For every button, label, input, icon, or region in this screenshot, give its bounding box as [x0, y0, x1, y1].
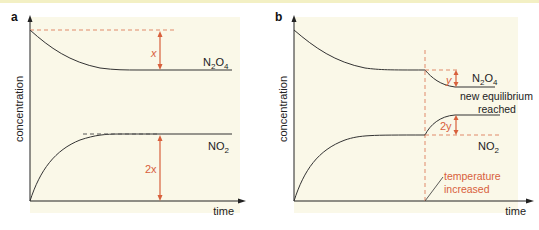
temperature-label: temperature — [444, 170, 501, 182]
x-axis-arrow-icon — [526, 199, 534, 204]
y-axis-label: concentration — [13, 76, 25, 142]
x-axis-label: time — [505, 205, 526, 217]
increased-label: increased — [444, 183, 490, 195]
x-axis-arrow-icon — [238, 199, 246, 204]
y-axis-label: concentration — [277, 76, 289, 142]
panel-a-graph: a time concentration x 2x N2O4 NO2 — [0, 3, 258, 230]
panel-b: b time concentration y 2y N2O4 NO2 new e… — [264, 3, 539, 230]
panel-letter: b — [275, 10, 282, 24]
panel-letter: a — [11, 10, 18, 24]
2x-change-label: 2x — [145, 163, 157, 175]
reached-label: reached — [478, 103, 516, 115]
x-axis-label: time — [213, 205, 234, 217]
panel-a: a time concentration x 2x N2O4 NO2 — [0, 3, 258, 230]
plot-background — [30, 17, 240, 213]
new-equilibrium-label: new equilibrium — [460, 90, 533, 102]
x-change-label: x — [150, 47, 157, 59]
2y-change-label: 2y — [440, 120, 452, 132]
panel-b-graph: b time concentration y 2y N2O4 NO2 new e… — [264, 3, 539, 230]
